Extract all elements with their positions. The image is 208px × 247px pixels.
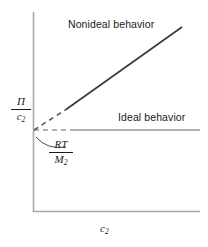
plot-canvas [0,0,208,247]
nonideal-behavior-dashed-segment [34,110,66,131]
nonideal-behavior-line [66,27,182,110]
nonideal-behavior-label: Nonideal behavior [68,18,154,30]
y-axis-label-denominator: c2 [11,111,31,123]
ideal-behavior-label: Ideal behavior [118,111,185,123]
x-axis-label: c2 [100,222,109,234]
slope-label-numerator: RT [49,139,73,151]
y-axis-label-numerator: Π [11,96,31,108]
osmotic-pressure-figure: Π c2 RT M2 Nonideal behavior Ideal behav… [0,0,208,247]
slope-label: RT M2 [49,139,73,165]
y-axis-label: Π c2 [11,96,31,122]
slope-label-denominator: M2 [49,154,73,166]
